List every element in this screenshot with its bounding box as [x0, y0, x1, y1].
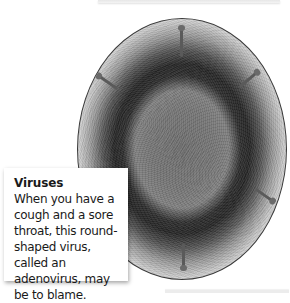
virus-fiber-bottom	[182, 243, 185, 267]
bottom-divider	[165, 290, 289, 293]
caption-body: When you have a cough and a sore throat,…	[14, 191, 120, 303]
figure-caption: Viruses When you have a cough and a sore…	[4, 168, 128, 281]
top-divider	[98, 0, 280, 3]
virus-fiber-top	[180, 29, 183, 57]
caption-title: Viruses	[14, 175, 120, 191]
